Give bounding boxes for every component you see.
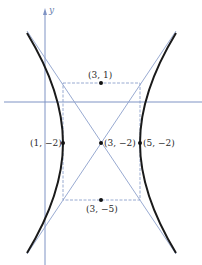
point-center [99,141,103,145]
label-top-covertex: (3, 1) [88,71,112,80]
y-axis-label: y [49,6,54,15]
hyperbola-diagram [0,0,202,265]
label-right-vertex: (5, −2) [143,139,175,148]
point-right-vertex [138,141,142,145]
point-top-covertex [99,81,103,85]
y-axis-arrow-icon [43,8,47,15]
point-bottom-covertex [99,198,103,202]
label-left-vertex: (1, −2) [30,139,62,148]
label-center: (3, −2) [104,139,136,148]
label-bottom-covertex: (3, −5) [86,205,118,214]
